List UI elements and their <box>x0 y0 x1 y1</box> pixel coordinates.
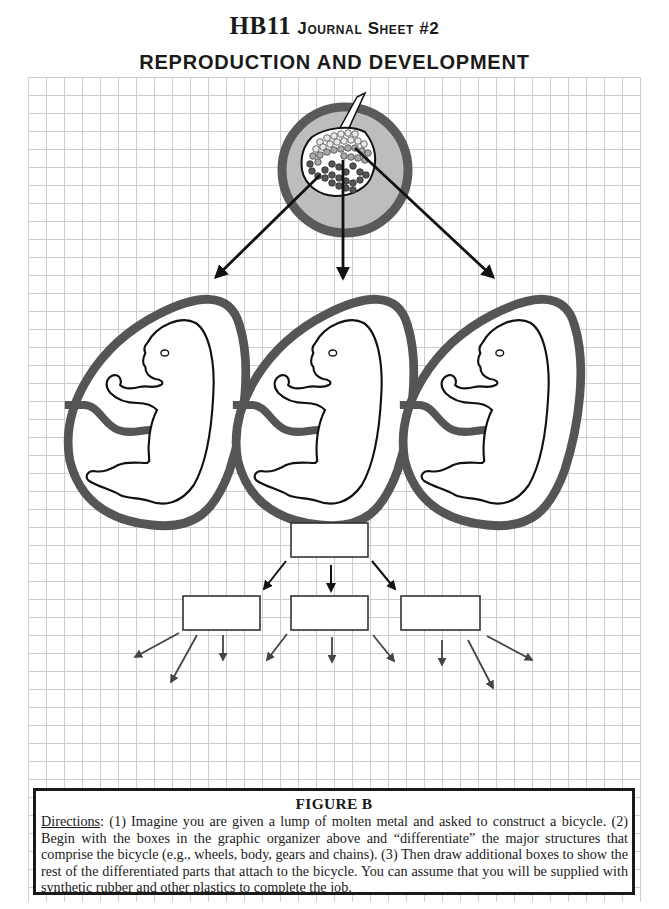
organizer-box-right <box>401 596 480 630</box>
figure-caption-box: FIGURE B Directions: (1) Imagine you are… <box>33 788 635 895</box>
embryo-right <box>400 299 581 525</box>
directions-body: : (1) Imagine you are given a lump of mo… <box>41 813 628 895</box>
graphic-organizer <box>135 523 532 688</box>
embryo-middle <box>233 299 414 525</box>
organizer-top-box <box>291 523 368 557</box>
organizer-box-left <box>183 596 260 630</box>
figure-illustration <box>0 0 669 909</box>
directions-label: Directions <box>41 813 100 829</box>
directions-text: Directions: (1) Imagine you are given a … <box>36 813 632 896</box>
organizer-box-middle <box>291 596 368 630</box>
embryo-left <box>65 299 246 525</box>
figure-label: FIGURE B <box>36 795 632 813</box>
blastocyst-icon <box>282 93 408 233</box>
